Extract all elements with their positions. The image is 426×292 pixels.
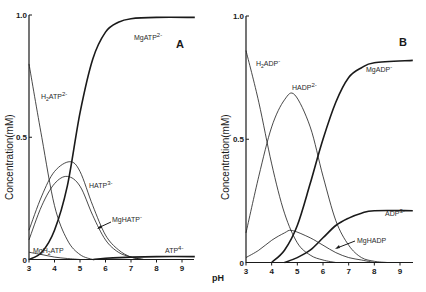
x-tick-label: 9 — [180, 264, 185, 273]
x-tick-label: 3 — [244, 267, 249, 276]
panel-b-chart: Concentration(mM) 00.51.0 3456789 B H2AD… — [220, 12, 413, 276]
label-h2atp: H2ATP2- — [41, 91, 67, 102]
x-tick-label: 3 — [27, 264, 32, 273]
x-tick-label: 7 — [346, 267, 351, 276]
label-hatp: HATP3- — [89, 180, 113, 189]
x-tick-label: 5 — [295, 267, 300, 276]
x-tick-label: 5 — [78, 264, 83, 273]
x-tick-label: 8 — [372, 267, 377, 276]
label-mgadp: MgADP- — [366, 64, 392, 74]
label-mghadp: MgHADP — [357, 237, 387, 245]
curve-adp3 — [285, 211, 413, 263]
panel-a-y-axis-label: Concentration(mM) — [4, 114, 15, 200]
panel-b-label: B — [399, 36, 407, 48]
y-tick-label: 0.5 — [233, 135, 245, 144]
label-atp4: ATP4- — [165, 245, 183, 254]
label-adp3: ADP3- — [385, 208, 405, 217]
panel-a-x-ticks: 3456789 — [27, 260, 185, 273]
panel-a-curves — [29, 17, 195, 259]
label-mghatp: MgHATP- — [112, 214, 142, 224]
panel-b-y-axis-label: Concentration(mM) — [220, 114, 231, 200]
x-tick-label: 6 — [321, 267, 326, 276]
panel-a-chart: Concentration(mM) 00.51.0 3456789 A MgAT… — [4, 11, 195, 273]
arrowhead-icon — [335, 245, 340, 249]
panel-b-x-ticks: 3456789 — [244, 263, 403, 276]
figure-canvas: Concentration(mM) 00.51.0 3456789 A MgAT… — [0, 0, 426, 292]
x-tick-label: 6 — [103, 264, 108, 273]
x-tick-label: 9 — [398, 267, 403, 276]
curve-mgatp2 — [29, 17, 195, 259]
panel-a-label: A — [176, 38, 184, 50]
y-tick-label: 1.0 — [16, 11, 28, 20]
x-tick-label: 7 — [129, 264, 134, 273]
y-tick-label: 1.0 — [233, 12, 245, 21]
curve-hatp3 — [29, 162, 144, 260]
label-h2adp: H2ADP- — [256, 58, 280, 69]
x-axis-label: pH — [212, 273, 224, 283]
curve-mghadp — [246, 230, 374, 262]
x-tick-label: 8 — [154, 264, 159, 273]
x-tick-label: 4 — [269, 267, 274, 276]
label-hadp: HADP2- — [292, 82, 317, 91]
mghadp-pointer-arrow — [337, 241, 355, 248]
label-mgatp: MgATP2- — [134, 32, 162, 42]
y-tick-label: 0.5 — [16, 133, 28, 142]
panel-b-curves — [246, 51, 413, 263]
x-tick-label: 4 — [52, 264, 57, 273]
